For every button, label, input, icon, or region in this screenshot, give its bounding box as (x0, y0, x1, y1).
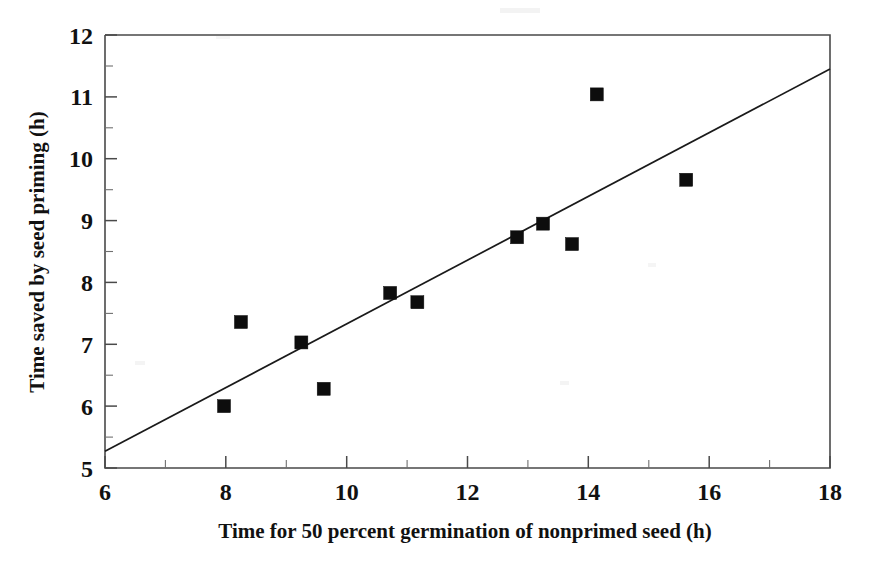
data-point-marker (411, 296, 424, 309)
data-point-marker (590, 88, 603, 101)
y-tick-label: 7 (81, 332, 93, 358)
data-point-marker (680, 173, 693, 186)
x-tick-label: 10 (335, 479, 359, 505)
data-point-marker (537, 217, 550, 230)
data-point-marker (295, 336, 308, 349)
data-point-marker (566, 238, 579, 251)
y-tick-label: 5 (81, 456, 93, 482)
y-tick-label: 6 (81, 394, 93, 420)
scatter-chart-figure: 5 6 7 8 9 10 11 12 6 8 10 12 14 16 18 (0, 0, 870, 568)
chart-svg: 5 6 7 8 9 10 11 12 6 8 10 12 14 16 18 (0, 0, 870, 568)
chart-background (0, 0, 870, 568)
x-tick-label: 12 (456, 479, 480, 505)
data-point-marker (384, 286, 397, 299)
x-tick-label: 16 (697, 479, 721, 505)
data-point-marker (317, 382, 330, 395)
x-tick-label: 14 (576, 479, 600, 505)
data-point-marker (511, 231, 524, 244)
x-tick-label: 18 (818, 479, 842, 505)
y-tick-label: 10 (69, 146, 93, 172)
y-tick-label: 9 (81, 208, 93, 234)
x-axis-title: Time for 50 percent germination of nonpr… (218, 519, 711, 543)
data-point-marker (218, 400, 231, 413)
y-axis-title: Time saved by seed priming (h) (25, 111, 49, 392)
x-tick-label: 6 (99, 479, 111, 505)
y-tick-label: 11 (70, 84, 93, 110)
x-tick-label: 8 (220, 479, 232, 505)
data-point-marker (234, 316, 247, 329)
y-tick-label: 12 (69, 23, 93, 49)
y-tick-label: 8 (81, 270, 93, 296)
